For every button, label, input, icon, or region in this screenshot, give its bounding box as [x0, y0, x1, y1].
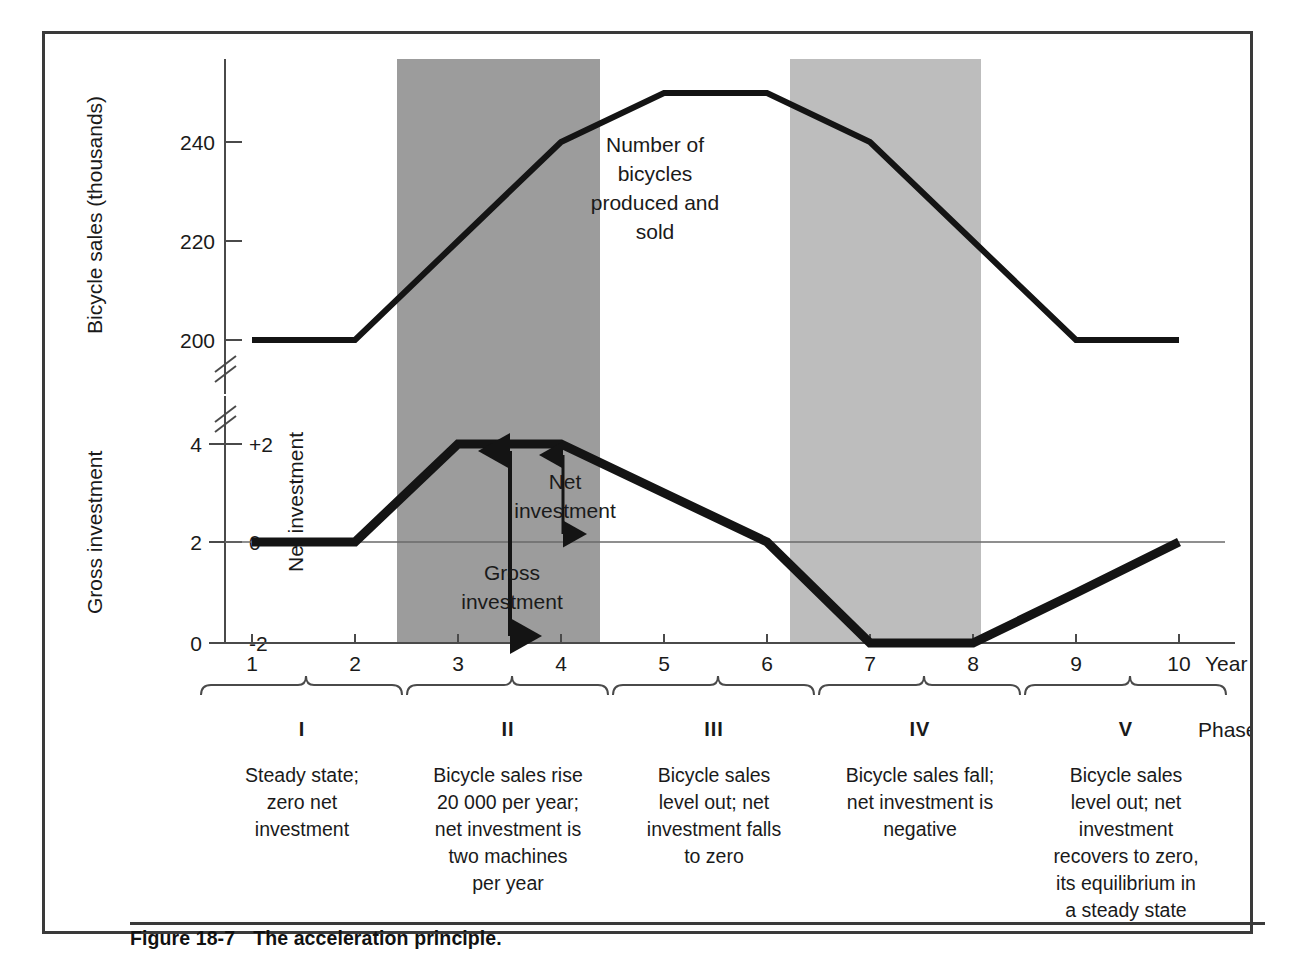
bicycle-sales-line [252, 93, 1179, 340]
phase-roman-ii: II [501, 718, 514, 740]
sales-annotation-line-1: Number of [606, 133, 704, 156]
phase-description-iii: Bicycle sales level out; net investment … [647, 764, 782, 867]
x-tick-label-9: 9 [1070, 652, 1082, 675]
phase-iv-line-3: negative [883, 818, 957, 840]
figure-frame: 240 220 200 Bicycle sales (thousands) Nu… [42, 31, 1253, 934]
net-investment-annotation-line-2: investment [514, 499, 616, 522]
gross-tick-label-0: 0 [190, 632, 202, 655]
phase-roman-v: V [1119, 718, 1133, 740]
figure-caption-number: Figure 18-7 [130, 927, 235, 949]
x-tick-label-6: 6 [761, 652, 773, 675]
phase-roman-i: I [299, 718, 306, 740]
gross-tick-label-4: 4 [190, 433, 202, 456]
sales-curve-annotation: Number of bicycles produced and sold [591, 133, 719, 243]
phase-bracket-iii [613, 676, 814, 695]
phase-roman-iv: IV [910, 718, 931, 740]
x-tick-label-7: 7 [864, 652, 876, 675]
figure-caption: Figure 18-7The acceleration principle. [130, 927, 502, 950]
phase-i-line-2: zero net [267, 791, 338, 813]
phase-description-ii: Bicycle sales rise 20 000 per year; net … [433, 764, 583, 894]
gross-tick-label-2: 2 [190, 531, 202, 554]
phase-i-line-3: investment [255, 818, 350, 840]
gross-investment-axis-title: Gross investment [83, 450, 106, 614]
phase-ii-line-1: Bicycle sales rise [433, 764, 583, 786]
x-tick-label-8: 8 [967, 652, 979, 675]
sales-annotation-line-3: produced and [591, 191, 719, 214]
net-investment-axis-title: Net investment [284, 432, 307, 572]
phase-ii-line-4: two machines [448, 845, 567, 867]
phase-iii-line-1: Bicycle sales [658, 764, 771, 786]
x-axis-ticks [252, 634, 1179, 643]
x-tick-label-3: 3 [452, 652, 464, 675]
net-investment-annotation-line-1: Net [549, 470, 582, 493]
upper-y-axis-title: Bicycle sales (thousands) [83, 96, 106, 334]
sales-annotation-line-2: bicycles [618, 162, 693, 185]
caption-divider [130, 922, 1265, 925]
phase-v-line-3: investment [1079, 818, 1174, 840]
phase-roman-iii: III [704, 718, 724, 740]
phase-brackets [201, 676, 1226, 695]
phase-v-line-2: level out; net [1071, 791, 1182, 813]
phase-ii-line-5: per year [472, 872, 544, 894]
phase-v-line-5: its equilibrium in [1056, 872, 1196, 894]
phase-axis-title: Phase [1198, 718, 1250, 741]
phase-v-line-4: recovers to zero, [1053, 845, 1198, 867]
figure-page: 240 220 200 Bicycle sales (thousands) Nu… [0, 0, 1297, 980]
phase-bracket-ii [407, 676, 608, 695]
phase-bracket-v [1025, 676, 1226, 695]
shaded-band-phase-ii [397, 59, 600, 644]
x-tick-label-1: 1 [246, 652, 258, 675]
acceleration-principle-chart: 240 220 200 Bicycle sales (thousands) Nu… [45, 34, 1250, 931]
gross-investment-line [252, 444, 1179, 643]
gross-investment-annotation-line-2: investment [461, 590, 563, 613]
phase-description-v: Bicycle sales level out; net investment … [1053, 764, 1198, 921]
gross-investment-annotation-line-1: Gross [484, 561, 540, 584]
phase-iv-line-1: Bicycle sales fall; [846, 764, 994, 786]
upper-y-tick-label-220: 220 [180, 230, 215, 253]
shaded-band-phase-iv [790, 59, 981, 644]
net-tick-label-plus2: +2 [249, 433, 273, 456]
phase-v-line-6: a steady state [1065, 899, 1186, 921]
x-tick-label-4: 4 [555, 652, 567, 675]
phase-description-i: Steady state; zero net investment [245, 764, 359, 840]
phase-description-iv: Bicycle sales fall; net investment is ne… [846, 764, 994, 840]
x-tick-label-10: 10 [1167, 652, 1190, 675]
phase-bracket-iv [819, 676, 1020, 695]
phase-ii-line-3: net investment is [435, 818, 582, 840]
figure-caption-title: The acceleration principle. [253, 927, 502, 949]
phase-iii-line-3: investment falls [647, 818, 782, 840]
phase-iv-line-2: net investment is [847, 791, 994, 813]
phase-v-line-1: Bicycle sales [1070, 764, 1183, 786]
upper-y-tick-label-240: 240 [180, 131, 215, 154]
x-tick-label-2: 2 [349, 652, 361, 675]
phase-ii-line-2: 20 000 per year; [437, 791, 579, 813]
x-tick-label-5: 5 [658, 652, 670, 675]
upper-y-tick-label-200: 200 [180, 329, 215, 352]
x-axis-title: Year [1205, 652, 1247, 675]
sales-annotation-line-4: sold [636, 220, 675, 243]
phase-bracket-i [201, 676, 402, 695]
phase-iii-line-2: level out; net [659, 791, 770, 813]
phase-i-line-1: Steady state; [245, 764, 359, 786]
phase-iii-line-4: to zero [684, 845, 744, 867]
